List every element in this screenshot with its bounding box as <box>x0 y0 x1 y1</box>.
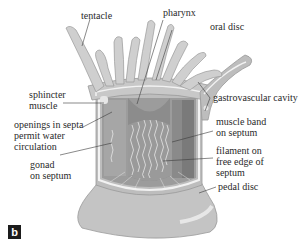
anemone-diagram: tentacle pharynx oral disc sphincter mus… <box>0 0 302 246</box>
label-sphincter-muscle-line2: muscle <box>29 101 57 112</box>
label-oral-disc: oral disc <box>210 22 244 33</box>
label-openings-line3: circulation <box>14 142 57 153</box>
label-gonad-line2: on septum <box>30 171 71 182</box>
label-filament-line1: filament on <box>216 146 262 157</box>
label-sphincter-muscle-line1: sphincter <box>29 90 66 101</box>
label-gastrovascular-cavity: gastrovascular cavity <box>213 93 298 104</box>
label-filament-line3: septum <box>216 168 245 179</box>
label-tentacle: tentacle <box>81 11 112 22</box>
panel-label-badge: b <box>8 225 21 239</box>
label-muscle-band-line2: on septum <box>216 128 257 139</box>
label-openings-line2: permit water <box>14 131 65 142</box>
label-openings-line1: openings in septa <box>14 120 83 131</box>
label-gonad-line1: gonad <box>30 160 54 171</box>
label-pharynx: pharynx <box>163 8 196 19</box>
label-filament-line2: free edge of <box>216 157 264 168</box>
label-muscle-band-line1: muscle band <box>216 117 266 128</box>
label-pedal-disc: pedal disc <box>218 182 258 193</box>
